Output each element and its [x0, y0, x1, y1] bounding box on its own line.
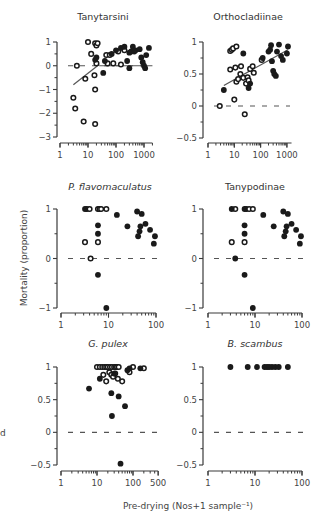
data-point-open	[87, 207, 92, 212]
data-point-open	[75, 63, 80, 68]
data-point-filled	[260, 55, 266, 61]
data-point-filled	[143, 221, 149, 227]
data-point-filled	[94, 55, 100, 61]
data-point-filled	[152, 233, 158, 239]
data-point-open	[95, 41, 100, 46]
y-tick-label: 1	[192, 37, 197, 47]
x-tick-label: 1000	[133, 150, 155, 160]
data-point-open	[81, 119, 86, 124]
panel-title: Orthocladiinae	[213, 11, 283, 22]
y-axis-label: Mortality (proportion)	[19, 210, 29, 307]
data-point-filled	[281, 233, 287, 239]
data-point-open	[242, 240, 247, 245]
data-point-filled	[242, 222, 248, 228]
data-point-filled	[242, 206, 248, 212]
data-point-filled	[151, 241, 157, 247]
data-point-filled	[228, 364, 234, 370]
panel-p-flavomaculatus: P. flavomaculatus10−1110100	[38, 181, 164, 330]
y-tick-label: 0.5	[183, 69, 197, 79]
data-point-open	[101, 373, 106, 378]
data-point-filled	[109, 413, 115, 419]
data-point-open	[88, 256, 93, 261]
data-point-filled	[95, 231, 101, 237]
data-point-open	[250, 64, 255, 69]
data-point-filled	[147, 227, 153, 233]
data-point-open	[86, 40, 91, 45]
x-tick-label: 100	[108, 150, 124, 160]
data-point-filled	[284, 223, 290, 229]
data-point-open	[93, 122, 98, 127]
x-axis-label: Pre-drying (Nos+1 sample⁻¹)	[123, 501, 253, 511]
y-tick-label: −3	[38, 132, 51, 142]
y-tick-label: 1	[46, 204, 51, 214]
x-tick-label: 100	[252, 150, 268, 160]
data-point-filled	[273, 73, 279, 79]
data-point-filled	[260, 212, 266, 218]
data-point-open	[236, 77, 241, 82]
data-point-filled	[146, 45, 152, 51]
panel-orthocladiinae: Orthocladiinae10.50−0.51101001000	[176, 11, 297, 160]
x-tick-label: 1	[205, 478, 210, 488]
data-point-open	[96, 240, 101, 245]
data-point-filled	[118, 461, 124, 467]
panel-title: G. pulex	[88, 338, 128, 349]
data-point-filled	[293, 227, 299, 233]
panel-title: Tanytarsini	[76, 11, 128, 22]
data-point-open	[228, 67, 233, 72]
data-point-filled	[108, 390, 114, 396]
y-tick-label: 0	[192, 427, 197, 437]
data-point-open	[233, 65, 238, 70]
y-tick-label: −0.5	[176, 133, 197, 143]
data-point-filled	[126, 65, 132, 71]
data-point-filled	[271, 223, 277, 229]
y-tick-label: −1	[38, 85, 51, 95]
data-point-open	[120, 379, 125, 384]
data-point-filled	[242, 272, 248, 278]
data-point-filled	[124, 58, 130, 64]
x-tick-label: 10	[250, 478, 261, 488]
data-point-filled	[142, 65, 148, 71]
data-point-filled	[125, 223, 131, 229]
panel-title: Tanypodinae	[224, 181, 285, 192]
data-point-filled	[137, 46, 143, 52]
y-tick-label: 0	[192, 101, 197, 111]
data-point-filled	[100, 70, 106, 76]
panel-b-scambus: B. scambus10.50−0.5110100	[176, 338, 310, 488]
data-point-filled	[240, 51, 246, 57]
data-point-filled	[221, 87, 227, 93]
data-point-filled	[276, 42, 282, 48]
x-tick-label: 1	[58, 478, 63, 488]
data-point-filled	[139, 211, 145, 217]
data-point-filled	[283, 228, 289, 234]
x-tick-label: 10	[229, 150, 240, 160]
data-point-filled	[274, 49, 280, 55]
data-point-open	[104, 379, 109, 384]
data-point-filled	[137, 228, 143, 234]
data-point-filled	[122, 403, 128, 409]
data-point-filled	[289, 221, 295, 227]
data-point-open	[229, 240, 234, 245]
data-point-open	[99, 207, 104, 212]
x-tick-label: 10	[83, 150, 94, 160]
y-tick-label: −2	[38, 108, 51, 118]
data-point-open	[73, 106, 78, 111]
data-point-filled	[285, 44, 291, 50]
data-point-filled	[269, 58, 275, 64]
y-tick-label: −1	[184, 303, 197, 313]
data-point-filled	[103, 305, 109, 311]
y-tick-label: 1	[192, 204, 197, 214]
data-point-filled	[82, 206, 88, 212]
data-point-filled	[97, 376, 103, 382]
data-point-filled	[245, 364, 251, 370]
data-point-filled	[114, 212, 120, 218]
data-point-filled	[113, 47, 119, 53]
data-point-filled	[276, 364, 282, 370]
data-point-open	[242, 112, 247, 117]
data-point-filled	[135, 233, 141, 239]
x-tick-label: 100	[294, 320, 310, 330]
panels-group: Tanytarsini10−1−2−31101001000Orthocladii…	[30, 11, 310, 488]
data-point-open	[251, 70, 256, 75]
data-point-open	[119, 62, 124, 67]
x-tick-label: 100	[294, 478, 310, 488]
data-point-filled	[242, 231, 248, 237]
